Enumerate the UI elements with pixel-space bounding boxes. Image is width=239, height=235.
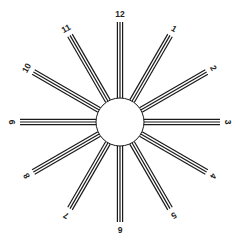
hour-label-7: 7 [61,210,70,221]
ray-line [142,74,208,112]
hour-label-9: 9 [7,119,17,124]
ray-9 [20,119,96,124]
astigmatism-clock-dial: 121234567891011 [0,0,239,235]
hour-label-2: 2 [208,63,219,72]
center-circle [96,98,144,146]
hour-label-10: 10 [20,61,34,74]
ray-line [130,34,168,100]
ray-line [141,134,207,172]
hour-label-12: 12 [115,9,125,19]
ray-line [142,132,208,170]
hour-label-5: 5 [169,210,178,221]
hour-label-4: 4 [208,171,219,180]
ray-line [33,134,99,172]
ray-line [72,144,110,210]
ray-line [70,35,108,101]
ray-6 [117,146,122,222]
ray-line [132,143,170,209]
hour-label-1: 1 [169,23,178,34]
hour-label-6: 6 [117,225,122,235]
ray-line [32,74,98,112]
ray-line [72,34,110,100]
hour-label-11: 11 [60,22,73,35]
ray-line [132,35,170,101]
ray-line [33,72,99,110]
ray-line [141,72,207,110]
ray-line [32,132,98,170]
ray-12 [117,22,122,98]
ray-3 [144,119,220,124]
ray-line [130,144,168,210]
hour-label-3: 3 [223,120,233,125]
hour-label-8: 8 [21,171,32,180]
ray-line [70,143,108,209]
